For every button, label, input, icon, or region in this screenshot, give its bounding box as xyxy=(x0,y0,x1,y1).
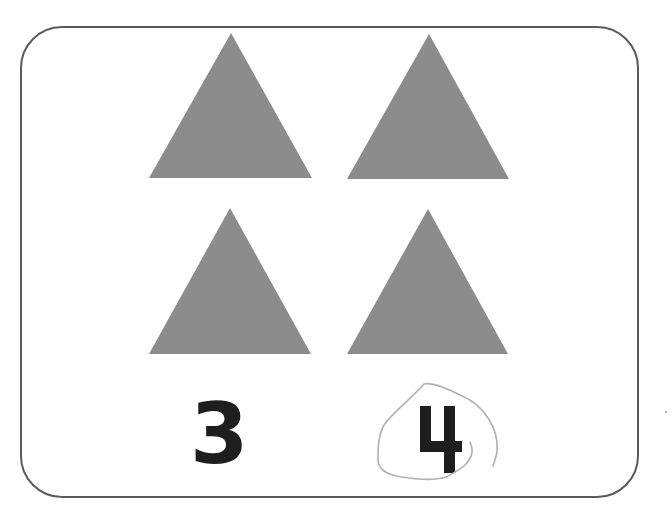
triangle-bottom-left xyxy=(149,208,311,354)
hand-drawn-circle xyxy=(378,384,497,480)
digit-four-glyph xyxy=(420,406,462,473)
triangle-top-right xyxy=(347,34,509,179)
card-figure xyxy=(0,0,672,515)
answer-option-4[interactable] xyxy=(378,384,497,480)
triangle-top-left xyxy=(149,33,312,178)
answer-option-3[interactable]: 3 xyxy=(190,392,248,476)
stray-mark xyxy=(665,411,667,413)
triangle-bottom-right xyxy=(347,209,508,354)
